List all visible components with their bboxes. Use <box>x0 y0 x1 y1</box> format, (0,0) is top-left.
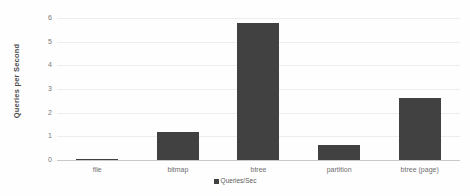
y-tick-label: 0 <box>34 156 52 164</box>
y-tick-label: 2 <box>34 109 52 117</box>
bars-layer <box>57 18 460 160</box>
bar-slot <box>138 18 219 160</box>
legend-label: Queries/Sec <box>221 177 257 185</box>
bar <box>399 98 441 160</box>
y-axis-title: Queries per Second <box>10 6 24 156</box>
bar-slot <box>218 18 299 160</box>
bar <box>318 145 360 160</box>
x-axis-line <box>57 160 460 161</box>
bar <box>157 132 199 160</box>
chart-legend: Queries/Sec <box>0 177 470 185</box>
legend-item-queries-sec: Queries/Sec <box>214 177 257 185</box>
x-tick-label: btree <box>218 165 299 174</box>
legend-swatch-icon <box>214 179 219 184</box>
bar <box>237 23 279 160</box>
x-tick-label: bitmap <box>138 165 219 174</box>
y-tick-label: 5 <box>34 38 52 46</box>
y-tick-label: 6 <box>34 14 52 22</box>
x-tick-label: partition <box>299 165 380 174</box>
y-tick-label: 4 <box>34 61 52 69</box>
bar-chart: Queries per Second 0123456 filebitmapbtr… <box>0 0 470 196</box>
x-tick-label: btree (page) <box>379 165 460 174</box>
bar-slot <box>57 18 138 160</box>
bar <box>76 159 118 160</box>
bar-slot <box>299 18 380 160</box>
y-tick-label: 3 <box>34 85 52 93</box>
x-tick-label: file <box>57 165 138 174</box>
y-tick-label: 1 <box>34 132 52 140</box>
bar-slot <box>379 18 460 160</box>
